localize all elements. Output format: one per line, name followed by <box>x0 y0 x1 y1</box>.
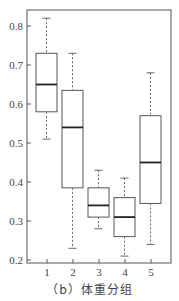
box-group-1 <box>36 18 57 139</box>
x-axis: 12345 <box>44 259 154 278</box>
y-tick-label: 0.5 <box>9 137 23 149</box>
boxes <box>36 18 161 256</box>
box-group-5 <box>140 73 161 245</box>
y-tick-label: 0.2 <box>9 254 23 266</box>
y-tick-label: 0.6 <box>9 98 23 110</box>
box-group-2 <box>62 53 83 248</box>
iqr-box <box>88 188 109 217</box>
box-group-4 <box>114 178 135 256</box>
x-tick-label: 2 <box>70 266 76 278</box>
chart-caption: （b）体重分组 <box>0 280 179 297</box>
y-tick-label: 0.8 <box>9 20 23 32</box>
y-tick-label: 0.7 <box>9 59 23 71</box>
x-tick-label: 5 <box>148 266 154 278</box>
iqr-box <box>36 53 57 112</box>
y-axis: 0.20.30.40.50.60.70.8 <box>9 20 31 266</box>
iqr-box <box>62 90 83 188</box>
y-tick-label: 0.3 <box>9 215 23 227</box>
x-tick-label: 1 <box>44 266 50 278</box>
x-tick-label: 4 <box>122 266 128 278</box>
x-tick-label: 3 <box>96 266 102 278</box>
box-plot: 0.20.30.40.50.60.70.8 12345 <box>0 0 179 301</box>
y-tick-label: 0.4 <box>9 176 23 188</box>
iqr-box <box>140 116 161 204</box>
box-group-3 <box>88 170 109 229</box>
